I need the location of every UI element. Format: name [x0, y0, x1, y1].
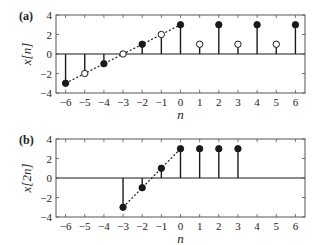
- x-tick-label: −6: [60, 96, 72, 108]
- x-tick-label: −1: [155, 220, 167, 232]
- filled-marker: [254, 22, 260, 28]
- y-tick-label: 0: [47, 48, 53, 60]
- x-axis-label: n: [177, 231, 184, 245]
- x-axis-label: n: [177, 107, 184, 122]
- x-tick-label: 6: [293, 96, 299, 108]
- y-tick-label: −4: [40, 87, 52, 99]
- x-tick-label: 5: [274, 96, 280, 108]
- filled-marker: [139, 41, 145, 47]
- filled-marker: [216, 22, 222, 28]
- filled-marker: [177, 146, 183, 152]
- filled-marker: [177, 22, 183, 28]
- filled-marker: [158, 165, 164, 171]
- x-tick-label: −4: [98, 96, 110, 108]
- x-tick-label: −6: [60, 220, 72, 232]
- x-tick-label: −1: [155, 96, 167, 108]
- y-tick-label: −4: [40, 211, 52, 223]
- x-tick-label: −3: [117, 96, 129, 108]
- y-tick-label: 0: [47, 172, 53, 184]
- open-marker: [82, 70, 88, 76]
- open-marker: [158, 31, 164, 37]
- x-tick-label: −2: [136, 220, 148, 232]
- x-tick-label: −5: [79, 96, 91, 108]
- x-tick-label: 1: [197, 220, 203, 232]
- panel-label: (b): [19, 133, 34, 147]
- x-tick-label: 2: [216, 220, 222, 232]
- y-axis-label: x[2n]: [19, 164, 34, 194]
- filled-marker: [101, 61, 107, 67]
- panel-a: −6−5−4−3−2−10123456−4−2024(a)x[n]n: [19, 9, 305, 122]
- filled-marker: [235, 146, 241, 152]
- open-marker: [120, 51, 126, 57]
- open-marker: [196, 41, 202, 47]
- x-tick-label: 2: [216, 96, 222, 108]
- open-marker: [235, 41, 241, 47]
- filled-marker: [216, 146, 222, 152]
- x-tick-label: −2: [136, 96, 148, 108]
- y-axis-label: x[n]: [19, 43, 34, 66]
- chart-canvas: −6−5−4−3−2−10123456−4−2024(a)x[n]n−6−5−4…: [0, 0, 318, 245]
- y-tick-label: 2: [47, 29, 53, 41]
- filled-marker: [62, 80, 68, 86]
- filled-marker: [139, 185, 145, 191]
- x-tick-label: −3: [117, 220, 129, 232]
- x-tick-label: 3: [235, 220, 241, 232]
- x-tick-label: −4: [98, 220, 110, 232]
- x-tick-label: 6: [293, 220, 299, 232]
- x-tick-label: −5: [79, 220, 91, 232]
- panel-b: −6−5−4−3−2−10123456−4−2024(b)x[2n]n: [19, 133, 305, 245]
- open-marker: [273, 41, 279, 47]
- x-tick-label: 1: [197, 96, 203, 108]
- x-tick-label: 5: [274, 220, 280, 232]
- y-tick-label: 2: [47, 153, 53, 165]
- panel-label: (a): [19, 9, 33, 23]
- y-tick-label: −2: [40, 68, 52, 80]
- x-tick-label: 4: [254, 220, 260, 232]
- x-tick-label: 4: [254, 96, 260, 108]
- y-tick-label: 4: [47, 133, 53, 145]
- filled-marker: [292, 22, 298, 28]
- y-tick-label: 4: [47, 9, 53, 21]
- filled-marker: [196, 146, 202, 152]
- filled-marker: [120, 204, 126, 210]
- y-tick-label: −2: [40, 192, 52, 204]
- x-tick-label: 3: [235, 96, 241, 108]
